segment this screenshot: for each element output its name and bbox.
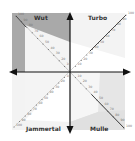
- scale-tick-br: 100: [126, 124, 132, 128]
- scale-tick-bl: 80: [27, 112, 31, 116]
- scale-tick-bl: 40: [50, 90, 54, 94]
- scale-tick-tr: 20: [83, 57, 87, 61]
- scale-tick-mark-bl: [47, 94, 48, 95]
- scale-tick-mark-tl: [26, 27, 27, 28]
- scale-tick-tl: 50: [45, 40, 49, 44]
- scale-tick-mark-br: [91, 94, 92, 95]
- scale-tick-tl: 10: [67, 62, 71, 66]
- scale-tick-mark-tl: [59, 60, 60, 61]
- scale-tick-mark-br: [75, 77, 76, 78]
- scale-tick-br: 40: [94, 90, 98, 94]
- scale-tick-mark-tr: [109, 32, 110, 33]
- scale-tick-br: 80: [115, 113, 119, 117]
- scale-tick-mark-bl: [64, 77, 65, 78]
- scale-tick-mark-tl: [32, 32, 33, 33]
- scale-tick-tl: 70: [34, 29, 38, 33]
- scale-tick-mark-bl: [14, 127, 15, 128]
- scale-tick-mark-tr: [126, 15, 127, 16]
- scale-tick-tl: 80: [29, 23, 33, 27]
- scale-tick-mark-tl: [53, 55, 54, 56]
- scale-tick-bl: 20: [61, 79, 65, 83]
- scale-tick-mark-bl: [36, 105, 37, 106]
- scale-tick-mark-br: [80, 83, 81, 84]
- scale-tick-mark-tr: [98, 43, 99, 44]
- scale-tick-br: 50: [99, 96, 103, 100]
- scale-tick-tr: 100: [128, 11, 134, 15]
- scale-tick-tl: 40: [50, 46, 54, 50]
- scale-tick-mark-bl: [19, 121, 20, 122]
- scale-tick-mark-tr: [103, 37, 104, 38]
- scale-tick-bl: 90: [22, 118, 26, 122]
- label-jammertal: Jammertal: [25, 125, 61, 133]
- scale-tick-mark-br: [124, 128, 125, 129]
- scale-tick-bl: 60: [38, 101, 42, 105]
- scale-tick-mark-tl: [16, 16, 17, 17]
- scale-tick-mark-br: [86, 88, 87, 89]
- scale-tick-mark-bl: [30, 110, 31, 111]
- scale-tick-bl: 10: [66, 74, 70, 78]
- quadrant-diagram: Wut Turbo Jammertal Mulle 10203040506070…: [0, 0, 135, 141]
- scale-tick-mark-tr: [86, 54, 87, 55]
- scale-tick-mark-tl: [48, 49, 49, 50]
- scale-tick-tl: 20: [61, 57, 65, 61]
- arrow-right-icon: [123, 69, 131, 76]
- scale-tick-br: 10: [77, 74, 81, 78]
- scale-tick-tr: 70: [111, 28, 115, 32]
- scale-tick-tr: 10: [78, 62, 82, 66]
- scale-tick-mark-tl: [21, 21, 22, 22]
- scale-tick-tr: 50: [100, 40, 104, 44]
- scale-tick-mark-bl: [53, 88, 54, 89]
- scale-tick-tl: 30: [56, 51, 60, 55]
- label-mulle: Mulle: [90, 125, 108, 132]
- scale-tick-bl: 30: [55, 85, 59, 89]
- scale-tick-bl: 50: [44, 96, 48, 100]
- scale-tick-mark-tr: [114, 26, 115, 27]
- scale-tick-mark-bl: [25, 116, 26, 117]
- scale-tick-br: 20: [83, 79, 87, 83]
- scale-tick-mark-tr: [120, 20, 121, 21]
- scale-tick-mark-br: [102, 105, 103, 106]
- scale-tick-tr: 60: [106, 34, 110, 38]
- scale-tick-mark-br: [118, 122, 119, 123]
- scale-tick-mark-tl: [37, 38, 38, 39]
- scale-tick-mark-tl: [43, 44, 44, 45]
- scale-tick-mark-br: [113, 116, 114, 117]
- label-wut: Wut: [34, 14, 48, 21]
- scale-tick-tr: 80: [117, 22, 121, 26]
- scale-tick-tr: 30: [89, 51, 93, 55]
- scale-tick-tr: 40: [94, 45, 98, 49]
- scale-tick-mark-br: [97, 100, 98, 101]
- scale-tick-tl: 60: [40, 34, 44, 38]
- scale-tick-br: 90: [121, 118, 125, 122]
- scale-tick-bl: 100: [16, 123, 22, 127]
- scale-tick-br: 30: [88, 85, 92, 89]
- scale-tick-mark-tr: [75, 66, 76, 67]
- label-turbo: Turbo: [88, 14, 107, 21]
- scale-tick-br: 70: [110, 107, 114, 111]
- scale-tick-tl: 100: [18, 12, 24, 16]
- scale-tick-mark-bl: [42, 99, 43, 100]
- scale-tick-mark-tl: [64, 66, 65, 67]
- scale-tick-br: 60: [104, 102, 108, 106]
- scale-tick-mark-tr: [92, 49, 93, 50]
- scale-tick-mark-bl: [58, 83, 59, 84]
- scale-tick-bl: 70: [33, 107, 37, 111]
- scale-tick-mark-tr: [81, 60, 82, 61]
- scale-tick-tl: 90: [23, 18, 27, 22]
- scale-tick-tr: 90: [122, 17, 126, 21]
- scale-tick-mark-br: [107, 111, 108, 112]
